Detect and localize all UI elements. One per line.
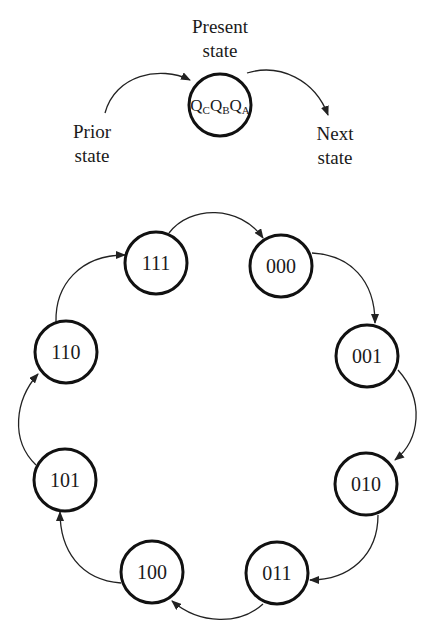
state-nodes: 000 001 010 011 100 101 110 111 [34,232,398,604]
state-node-111: 111 [125,232,187,294]
arrow-000-001 [312,253,375,323]
prior-state-label-line1: Prior [73,121,112,142]
prior-state-label-line2: state [75,145,110,166]
svg-text:101: 101 [50,469,80,491]
svg-text:100: 100 [137,561,167,583]
present-state-label-line1: Present [192,16,249,37]
legend: Present state QCQBQA Prior state Next st… [73,16,354,168]
arrow-111-000 [169,213,263,238]
next-arrow [247,70,328,115]
state-node-000: 000 [250,235,312,297]
arrow-100-101 [60,512,121,583]
state-node-011: 011 [246,542,308,604]
svg-text:111: 111 [142,252,171,274]
state-diagram: Present state QCQBQA Prior state Next st… [0,0,437,639]
present-state-bits: QCQBQA [190,96,250,116]
present-state-label-line2: state [203,40,238,61]
svg-text:110: 110 [51,341,80,363]
transitions [19,213,417,620]
state-node-001: 001 [336,325,398,387]
svg-text:000: 000 [266,255,296,277]
arrow-001-010 [395,370,416,460]
state-node-010: 010 [335,453,397,515]
next-state-label-line1: Next [317,123,355,144]
svg-text:010: 010 [351,473,381,495]
prior-arrow [105,73,190,113]
state-node-110: 110 [35,321,97,383]
svg-text:001: 001 [352,345,382,367]
next-state-label-line2: state [318,147,353,168]
arrow-101-110 [19,374,38,465]
state-node-100: 100 [121,541,183,603]
svg-text:011: 011 [262,562,291,584]
arrow-110-111 [56,255,125,322]
arrow-010-011 [310,515,378,580]
arrow-011-100 [172,601,263,619]
state-node-101: 101 [34,449,96,511]
